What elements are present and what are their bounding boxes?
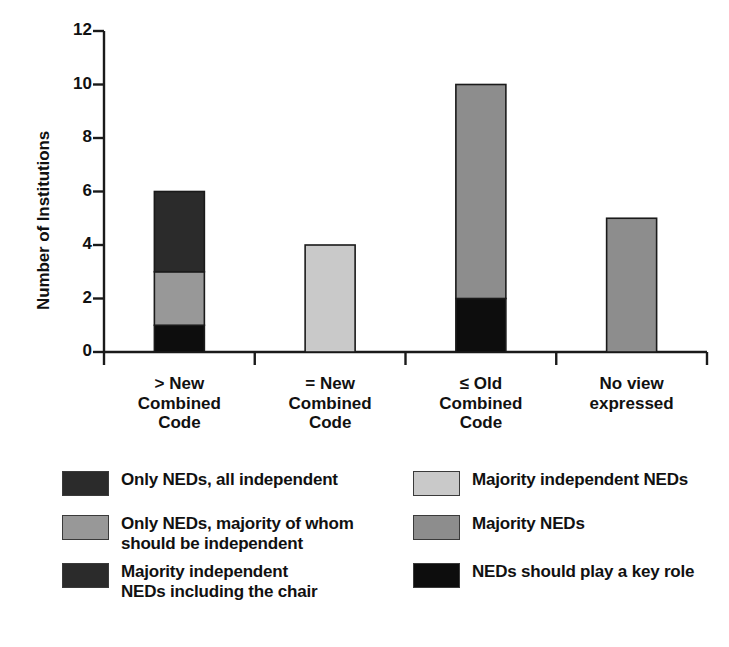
bar-segment <box>154 325 204 352</box>
legend-label: Only NEDs, all independent <box>121 470 338 490</box>
bar-group <box>305 245 355 352</box>
x-category-label: No view expressed <box>556 374 707 413</box>
bar-segment <box>305 245 355 352</box>
bar-chart: Number of Institutions 024681012 > New C… <box>0 0 729 647</box>
legend-swatch-icon <box>413 563 460 588</box>
bar-segment <box>607 218 657 352</box>
legend-label: NEDs should play a key role <box>472 562 694 582</box>
legend-item[interactable]: Majority independent NEDs <box>413 470 723 496</box>
x-category-label: = New Combined Code <box>255 374 406 433</box>
legend-label: Majority independent NEDs including the … <box>121 562 317 602</box>
legend-swatch-icon <box>62 515 109 540</box>
legend-label: Majority independent NEDs <box>472 470 688 490</box>
x-category-label: > New Combined Code <box>104 374 255 433</box>
legend-item[interactable]: Majority independent NEDs including the … <box>62 562 382 602</box>
legend-swatch-icon <box>413 515 460 540</box>
bar-segment <box>456 299 506 353</box>
legend-swatch-icon <box>62 563 109 588</box>
plot-area <box>0 0 729 400</box>
legend-item[interactable]: NEDs should play a key role <box>413 562 723 588</box>
legend-item[interactable]: Only NEDs, majority of whom should be in… <box>62 514 382 554</box>
legend-swatch-icon <box>62 471 109 496</box>
bar-segment <box>154 192 204 272</box>
bar-segment <box>154 272 204 326</box>
bar-group <box>154 192 204 353</box>
bar-segment <box>456 85 506 299</box>
legend-label: Only NEDs, majority of whom should be in… <box>121 514 354 554</box>
legend-swatch-icon <box>413 471 460 496</box>
legend-item[interactable]: Majority NEDs <box>413 514 713 540</box>
bar-group <box>456 85 506 353</box>
bar-group <box>607 218 657 352</box>
chart-legend: Only NEDs, all independentMajority indep… <box>0 462 729 592</box>
legend-label: Majority NEDs <box>472 514 585 534</box>
legend-item[interactable]: Only NEDs, all independent <box>62 470 362 496</box>
x-category-label: ≤ Old Combined Code <box>406 374 557 433</box>
